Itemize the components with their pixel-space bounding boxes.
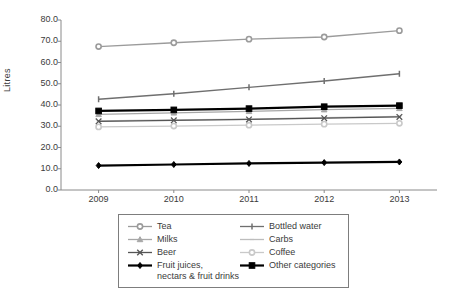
legend-label: Milks	[157, 234, 178, 245]
y-axis-title: Litres	[2, 32, 12, 92]
legend-marker-icon	[239, 247, 265, 258]
series-tea	[96, 28, 402, 49]
y-axis-tick: 10.0	[24, 164, 58, 173]
x-axis-tick: 2011	[229, 194, 269, 204]
legend-label: Beer	[157, 247, 176, 258]
legend-marker-icon	[127, 234, 153, 245]
legend-label: Other categories	[269, 260, 336, 271]
line-chart: Litres 0.010.020.030.040.050.060.070.080…	[0, 0, 453, 296]
series-milks	[96, 106, 402, 117]
y-axis-tick: 60.0	[24, 58, 58, 67]
legend-marker-icon	[239, 260, 265, 271]
legend-label: Tea	[157, 221, 172, 232]
x-axis-tick: 2009	[79, 194, 119, 204]
legend-marker-icon	[127, 221, 153, 232]
legend-label: Fruit juices, nectars & fruit drinks	[157, 260, 239, 281]
legend-item[interactable]: Bottled water	[239, 221, 322, 232]
chart-legend: TeaBottled waterMilksCarbsBeerCoffeeFrui…	[118, 214, 349, 288]
legend-item[interactable]: Coffee	[239, 247, 295, 258]
legend-item[interactable]: Carbs	[239, 234, 293, 245]
legend-label: Coffee	[269, 247, 295, 258]
y-axis-tick: 0.0	[24, 185, 58, 194]
y-axis-tick: 70.0	[24, 36, 58, 45]
legend-item[interactable]: Milks	[127, 234, 178, 245]
legend-item[interactable]: Beer	[127, 247, 176, 258]
legend-label: Carbs	[269, 234, 293, 245]
legend-marker-icon	[239, 221, 265, 232]
series-coffee	[96, 121, 402, 130]
series-beer	[96, 114, 402, 124]
legend-item[interactable]: Tea	[127, 221, 172, 232]
series-fruit	[96, 159, 402, 169]
x-axis-tick: 2013	[379, 194, 419, 204]
legend-marker-icon	[127, 247, 153, 258]
series-carbs	[97, 116, 402, 120]
y-axis-tick: 50.0	[24, 79, 58, 88]
y-axis-tick: 80.0	[24, 15, 58, 24]
x-axis-tick: 2012	[304, 194, 344, 204]
legend-marker-icon	[239, 234, 265, 245]
series-other	[96, 103, 402, 114]
legend-item[interactable]: Other categories	[239, 260, 336, 271]
y-axis-tick: 30.0	[24, 121, 58, 130]
legend-label: Bottled water	[269, 221, 322, 232]
series-bottled	[99, 71, 400, 103]
y-axis-tick: 20.0	[24, 143, 58, 152]
y-axis-tick: 40.0	[24, 100, 58, 109]
y-axis-tick-labels: 0.010.020.030.040.050.060.070.080.0	[24, 0, 58, 200]
legend-item[interactable]: Fruit juices, nectars & fruit drinks	[127, 260, 239, 281]
x-axis-tick: 2010	[154, 194, 194, 204]
legend-marker-icon	[127, 260, 153, 271]
